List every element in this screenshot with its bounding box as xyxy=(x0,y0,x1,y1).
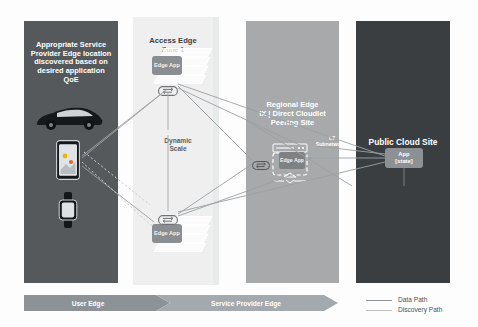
regional-title-line1: Regional Edge xyxy=(266,100,318,109)
regional-title-line2: IX | Direct Cloudlet xyxy=(259,109,326,118)
legend: Data Path Discovery Path xyxy=(366,295,470,317)
network-switch-icon xyxy=(252,156,270,174)
car-icon xyxy=(33,104,105,132)
dynamic-scale-line1: Dynamic xyxy=(164,137,192,144)
edge-ribbon: User Edge Service Provider Edge xyxy=(24,295,340,311)
dynamic-scale-label: Dynamic Scale xyxy=(155,137,201,153)
smartwatch-icon xyxy=(58,192,78,228)
diagram-canvas: Appropriate Service Provider Edge locati… xyxy=(0,0,478,327)
regional-title-line3: Peering Site xyxy=(271,118,314,127)
cloud-app-box[interactable]: App [state] xyxy=(385,148,423,168)
l7-subnetworks-label: L7 Subnetworks xyxy=(312,136,352,148)
smartphone-icon xyxy=(56,140,80,180)
user-edge-caption: Appropriate Service Provider Edge locati… xyxy=(24,41,118,85)
access-edge-zone-1-title: Access Edge Zone 1 xyxy=(133,37,213,54)
edge-app-zone-1[interactable]: Edge App xyxy=(152,56,182,75)
network-switch-icon xyxy=(158,82,178,100)
public-cloud-title: Public Cloud Site xyxy=(356,138,450,148)
dynamic-scale-line2: Scale xyxy=(169,145,186,152)
cloud-app-state: [state] xyxy=(395,158,412,164)
legend-data-path-swatch xyxy=(366,300,392,301)
legend-data-path-label: Data Path xyxy=(398,297,427,304)
zone1-subtitle-text: Zone 1 xyxy=(133,46,213,54)
edge-app-regional[interactable]: Edge App xyxy=(279,152,305,169)
ribbon-service-provider-label: Service Provider Edge xyxy=(152,295,340,311)
ribbon-user-edge-label: User Edge xyxy=(24,295,152,311)
network-switch-icon xyxy=(158,211,178,229)
legend-discovery-path-label: Discovery Path xyxy=(398,307,442,314)
legend-discovery-path-swatch xyxy=(366,310,392,311)
regional-edge-title: Regional Edge IX | Direct Cloudlet Peeri… xyxy=(246,101,339,128)
zone1-title-text: Access Edge xyxy=(149,36,196,45)
legend-item-data-path: Data Path xyxy=(366,295,470,305)
cloud-app-label: App xyxy=(398,151,409,157)
legend-item-discovery-path: Discovery Path xyxy=(366,305,470,315)
